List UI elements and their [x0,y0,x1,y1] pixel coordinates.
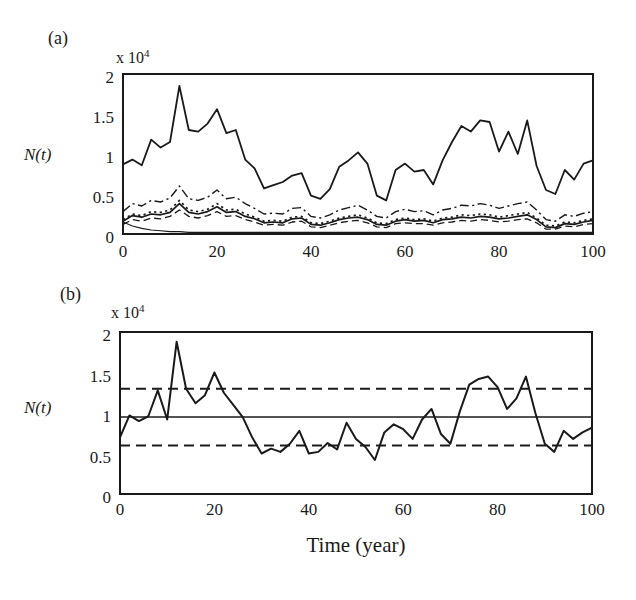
panel-b-series-population-solid [120,342,592,460]
panel-b-y-axis-title: N(t) [24,398,51,418]
panel-a-xtick-20: 20 [195,241,239,263]
panel-b-ytick-2: 2 [51,325,111,347]
panel-b-ytick-0.5: 0.5 [51,447,111,469]
panel-b-ytick-1: 1 [51,406,111,428]
panel-a-xtick-60: 60 [383,241,427,263]
x-axis-title: Time (year) [256,533,456,558]
panel-b-ytick-1.5: 1.5 [51,366,111,388]
panel-a-series-declining-population-thin [123,222,593,232]
panel-a-label: (a) [48,28,68,49]
panel-a-ytick-1: 1 [54,147,114,169]
panel-a-scale-base: x 10 [116,49,144,66]
panel-b-axes-frame [120,332,592,494]
panel-a-scale-exponent: 4 [144,47,150,59]
panel-a-y-axis-title: N(t) [24,145,51,165]
panel-a-xtick-40: 40 [289,241,333,263]
panel-a-plot-area [122,73,594,235]
panel-b-scale-label: x 104 [111,302,145,322]
panel-b-scale-base: x 10 [111,304,139,321]
panel-b-xtick-0: 0 [98,499,142,521]
panel-b-xtick-60: 60 [381,499,425,521]
panel-b-xtick-80: 80 [476,499,520,521]
panel-b-xtick-20: 20 [192,499,236,521]
panel-a-scale-label: x 104 [116,47,150,67]
panel-a-xtick-100: 100 [571,241,615,263]
panel-a-xtick-0: 0 [101,241,145,263]
panel-b-xtick-100: 100 [570,499,614,521]
panel-b-xtick-40: 40 [287,499,331,521]
panel-b-plot-area [119,331,593,495]
panel-a-ytick-1.5: 1.5 [54,107,114,129]
panel-a-axes-frame [123,74,593,234]
panel-b-label: (b) [60,284,81,305]
figure-two-panel-time-series: (a) x 104 N(t) (b) x 104 N(t) Time (year… [0,0,636,600]
panel-b-scale-exponent: 4 [139,302,145,314]
panel-a-ytick-2: 2 [54,67,114,89]
panel-a-ytick-0.5: 0.5 [54,187,114,209]
panel-a-xtick-80: 80 [477,241,521,263]
panel-a-series-subpopulation-solid [123,204,593,228]
panel-a-series-total-population-solid [123,86,593,200]
